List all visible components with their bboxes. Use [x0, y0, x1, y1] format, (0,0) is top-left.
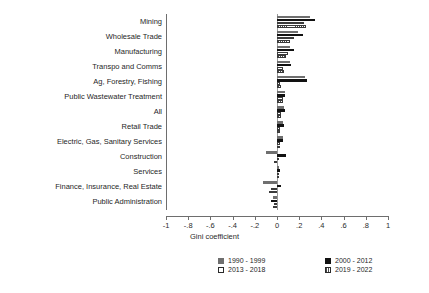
category-label: Mining — [140, 18, 162, 26]
category-label: Electric, Gas, Sanitary Services — [57, 138, 162, 146]
x-axis-title: Gini coefficient — [0, 232, 429, 241]
bar — [277, 100, 283, 103]
bar — [269, 191, 277, 194]
legend: 1990 - 1999 2000 - 2012 2013 - 2018 2019… — [218, 257, 418, 273]
legend-item-2000-2012: 2000 - 2012 — [325, 257, 418, 264]
bar-group: Retail Trade — [166, 120, 388, 135]
x-axis-tick-label: 0 — [275, 221, 279, 230]
x-axis-tick — [210, 216, 211, 220]
x-axis-tick-label: .8 — [363, 221, 369, 230]
bar — [277, 70, 284, 73]
x-axis-tick — [299, 216, 300, 220]
x-axis-tick-label: -1 — [163, 221, 170, 230]
category-label: Manufacturing — [114, 48, 162, 56]
bar-group: All — [166, 104, 388, 119]
legend-label: 2013 - 2018 — [228, 266, 265, 273]
x-axis-tick — [344, 216, 345, 220]
bar-group: Manufacturing — [166, 44, 388, 59]
bar — [263, 181, 277, 184]
gini-coefficient-bar-chart: MiningWholesale TradeManufacturingTransp… — [0, 0, 429, 293]
category-label: All — [154, 108, 162, 116]
category-label: Construction — [120, 153, 162, 161]
x-axis-tick-label: -.2 — [250, 221, 259, 230]
bar-group: Mining — [166, 14, 388, 29]
bar — [277, 25, 306, 28]
legend-label: 1990 - 1999 — [228, 257, 265, 264]
x-axis-tick — [233, 216, 234, 220]
bar-group: Finance, Insurance, Real Estate — [166, 180, 388, 195]
bar — [277, 115, 281, 118]
bar — [277, 176, 279, 179]
bar — [266, 151, 277, 154]
hatched-square-icon — [325, 267, 331, 273]
black-filled-square-icon — [325, 258, 331, 264]
category-label: Ag, Forestry, Fishing — [93, 78, 162, 86]
legend-label: 2019 - 2022 — [335, 266, 372, 273]
bar — [277, 185, 281, 188]
x-axis-tick — [166, 216, 167, 220]
bar-group: Wholesale Trade — [166, 29, 388, 44]
category-label: Retail Trade — [122, 123, 162, 131]
bar-group: Services — [166, 165, 388, 180]
bar — [277, 79, 307, 82]
bar — [277, 85, 281, 88]
x-axis-tick-label: .6 — [340, 221, 346, 230]
bar-group: Public Administration — [166, 195, 388, 210]
bar-group: Transpo and Comms — [166, 59, 388, 74]
bar-group: Ag, Forestry, Fishing — [166, 74, 388, 89]
x-axis-tick — [388, 216, 389, 220]
x-axis-tick — [188, 216, 189, 220]
plot-area: MiningWholesale TradeManufacturingTransp… — [166, 14, 388, 210]
bar — [277, 146, 280, 149]
grey-filled-square-icon — [218, 258, 224, 264]
category-label: Public Administration — [92, 199, 162, 207]
bar-group: Electric, Gas, Sanitary Services — [166, 135, 388, 150]
bar — [277, 158, 279, 161]
bar — [277, 55, 286, 58]
x-axis-tick-label: .4 — [318, 221, 324, 230]
x-axis-tick — [321, 216, 322, 220]
x-axis-tick-label: .2 — [296, 221, 302, 230]
bar — [277, 130, 280, 133]
category-label: Finance, Insurance, Real Estate — [55, 184, 162, 192]
hollow-square-icon — [218, 267, 224, 273]
legend-label: 2000 - 2012 — [335, 257, 372, 264]
category-label: Wholesale Trade — [106, 33, 162, 41]
x-axis-tick — [366, 216, 367, 220]
x-axis-tick-label: -.8 — [184, 221, 193, 230]
x-axis-tick — [277, 216, 278, 220]
legend-item-2013-2018: 2013 - 2018 — [218, 266, 311, 273]
legend-item-1990-1999: 1990 - 1999 — [218, 257, 311, 264]
category-label: Public Wastewater Treatment — [64, 93, 162, 101]
x-axis-tick-label: -.4 — [228, 221, 237, 230]
category-label: Services — [133, 169, 162, 177]
bar-group: Construction — [166, 150, 388, 165]
x-axis-tick-label: -.6 — [206, 221, 215, 230]
bar — [277, 40, 290, 43]
x-axis-tick-label: 1 — [386, 221, 390, 230]
x-axis-tick — [255, 216, 256, 220]
bar — [274, 161, 277, 164]
bar-group: Public Wastewater Treatment — [166, 89, 388, 104]
bar — [273, 206, 277, 209]
category-label: Transpo and Comms — [92, 63, 162, 71]
legend-item-2019-2022: 2019 - 2022 — [325, 266, 418, 273]
